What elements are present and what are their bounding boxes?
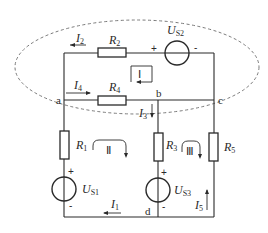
label-r2: R2 [108, 33, 120, 48]
label-i4: I4 [73, 78, 82, 93]
resistor-r5 [209, 133, 218, 161]
label-i2: I2 [75, 31, 84, 46]
us2-plus: + [151, 43, 157, 54]
label-us2: US2 [167, 23, 184, 38]
us2-minus: - [194, 42, 197, 53]
current-arrow-i3 [150, 104, 154, 118]
us1-minus: - [69, 200, 72, 211]
label-us3: US3 [174, 183, 191, 198]
resistor-r2 [98, 48, 126, 57]
us3-plus: + [161, 167, 167, 178]
label-r4: R4 [108, 80, 120, 95]
circuit-diagram: R2 R4 R1 R3 R5 US2 US1 US3 + - + - + - I… [0, 0, 268, 233]
node-c: c [218, 94, 223, 106]
label-r1: R1 [75, 138, 87, 153]
resistor-r1 [60, 131, 69, 159]
current-arrow-i5 [205, 189, 209, 210]
voltage-source-us2 [165, 41, 189, 65]
label-i1: I1 [110, 197, 119, 212]
resistor-r4 [98, 96, 126, 105]
loop-label-3: Ⅲ [186, 145, 194, 157]
us3-minus: - [162, 201, 165, 212]
node-a: a [56, 94, 61, 106]
loop-label-2: Ⅱ [106, 144, 111, 156]
label-i3: I3 [138, 106, 147, 121]
loop-indicator-1 [131, 66, 152, 84]
label-i5: I5 [194, 198, 203, 213]
loop-label-1: Ⅰ [138, 68, 141, 80]
voltage-source-us3 [146, 178, 170, 202]
voltage-source-us1 [52, 177, 76, 201]
label-us1: US1 [82, 182, 99, 197]
resistor-r3 [154, 133, 163, 161]
label-r5: R5 [223, 140, 235, 155]
node-d: d [145, 205, 151, 217]
node-b: b [156, 87, 162, 99]
label-r3: R3 [165, 138, 177, 153]
us1-plus: + [68, 166, 74, 177]
